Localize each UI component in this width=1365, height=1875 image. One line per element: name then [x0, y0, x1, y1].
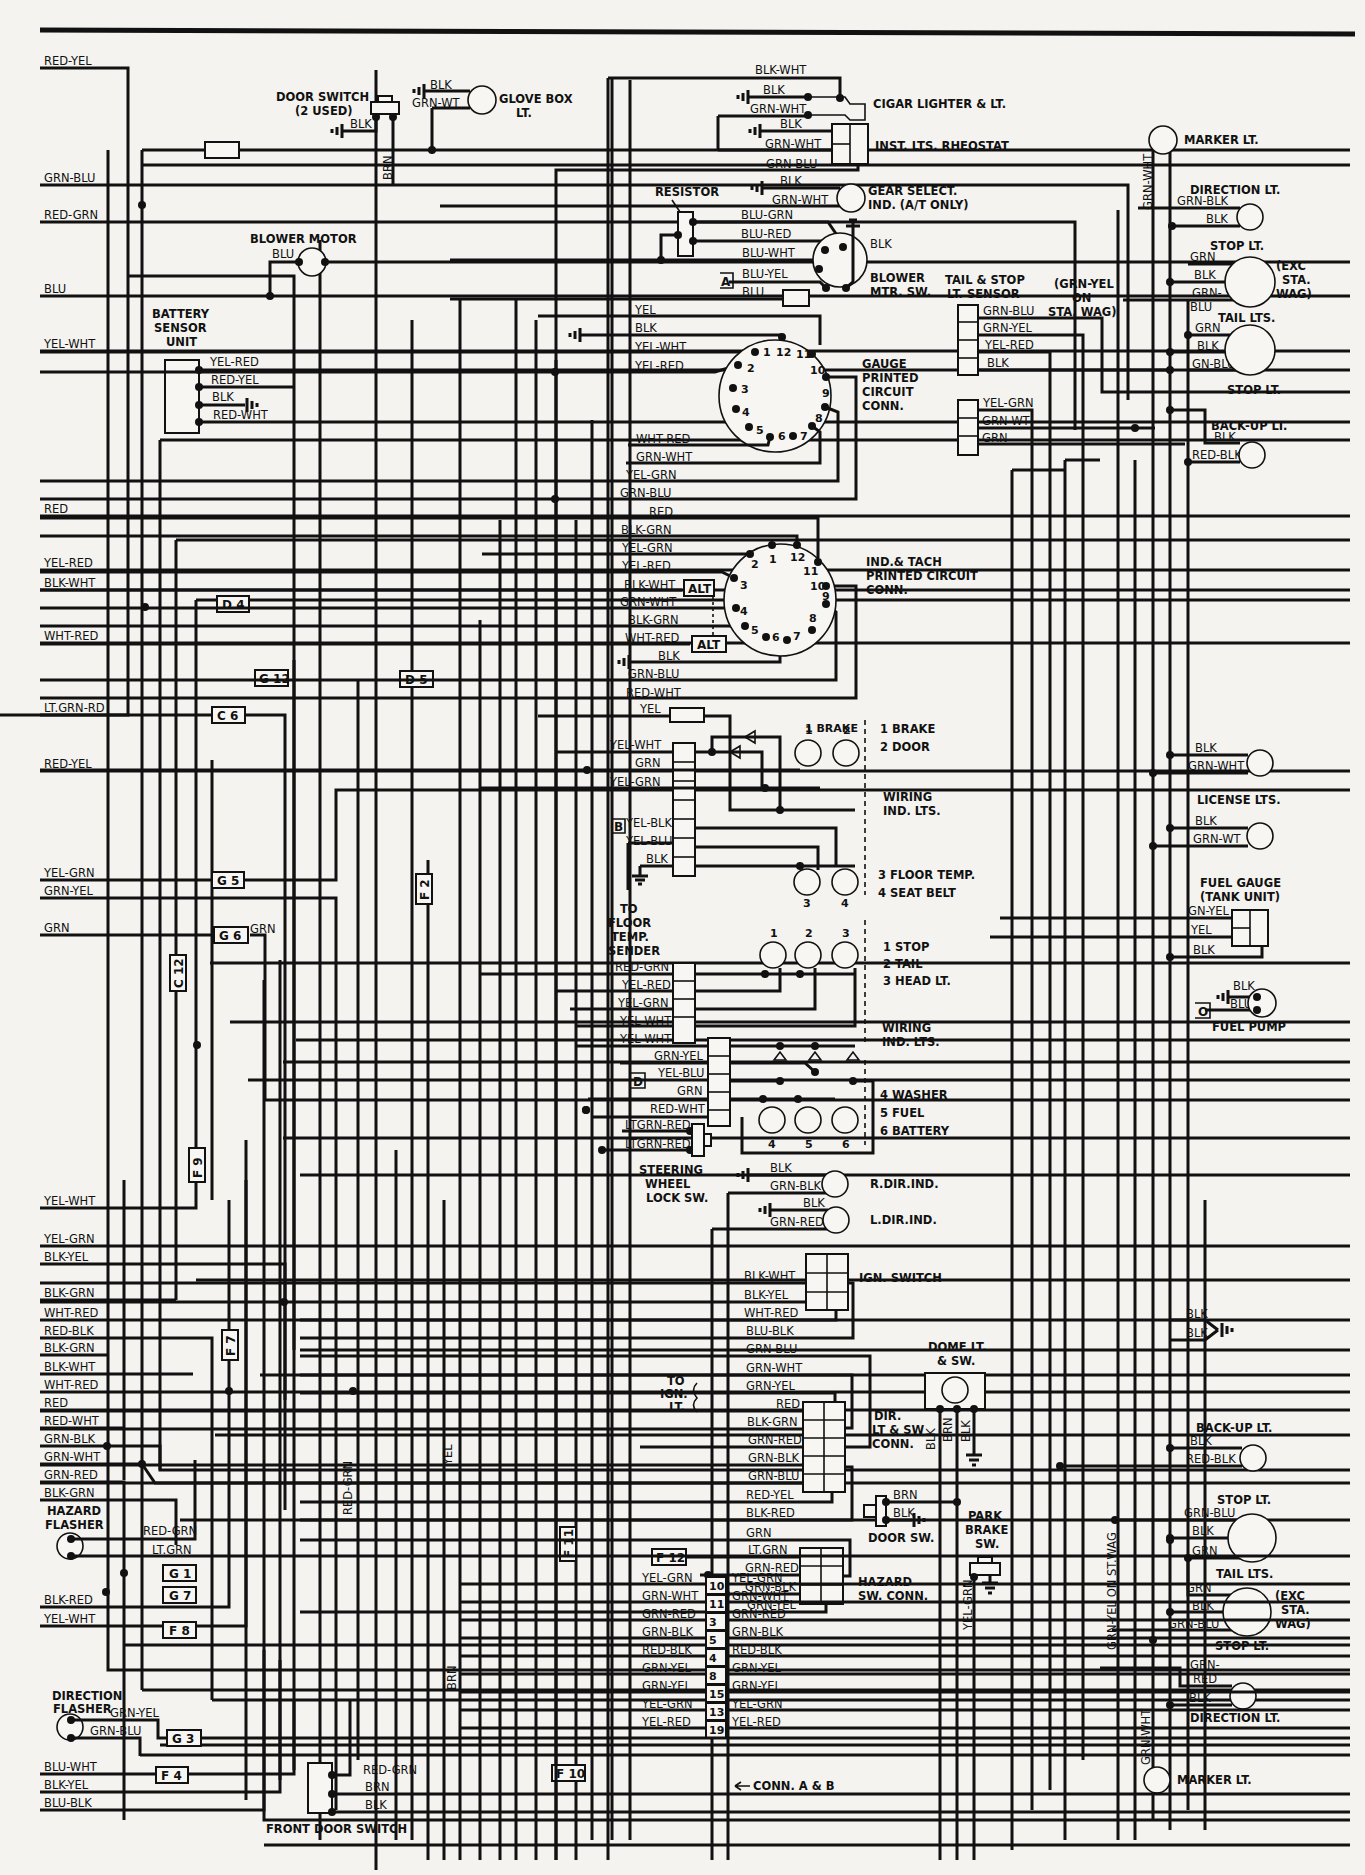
svg-text:BLK: BLK [1190, 1434, 1212, 1448]
left-wire-label: BLK-GRN [44, 1486, 95, 1500]
svg-text:BRN: BRN [445, 1666, 459, 1690]
left-wire-label: BLU-WHT [44, 1760, 98, 1774]
svg-text:TAIL & STOP: TAIL & STOP [945, 273, 1025, 287]
svg-text:2: 2 [843, 724, 851, 737]
svg-text:4 SEAT BELT: 4 SEAT BELT [878, 886, 956, 900]
svg-text:5: 5 [756, 424, 764, 437]
left-wire-label: BLK-GRN [44, 1286, 95, 1300]
svg-text:BRN: BRN [365, 1780, 389, 1794]
tag-o: O [1195, 1003, 1210, 1019]
svg-text:CIGAR LIGHTER & LT.: CIGAR LIGHTER & LT. [873, 97, 1006, 111]
svg-text:YEL-WHT: YEL-WHT [634, 340, 687, 354]
svg-text:BLU-BLK: BLU-BLK [746, 1324, 794, 1338]
code-box-g12: G 12 [255, 670, 290, 686]
left-wire-label: LT.GRN-RD [44, 701, 105, 715]
svg-text:BRN: BRN [893, 1488, 917, 1502]
svg-text:WHT-RED: WHT-RED [744, 1306, 798, 1320]
svg-text:DIR.: DIR. [874, 1409, 901, 1423]
conn-pin: 13 [709, 1706, 724, 1719]
svg-text:FUEL PUMP: FUEL PUMP [1212, 1020, 1286, 1034]
svg-text:TAIL LTS.: TAIL LTS. [1216, 1567, 1273, 1581]
svg-text:BLK: BLK [1186, 1326, 1208, 1340]
svg-text:IND. (A/T ONLY): IND. (A/T ONLY) [868, 198, 969, 212]
svg-text:LT.: LT. [669, 1400, 685, 1414]
svg-text:9: 9 [822, 387, 830, 400]
conn-pin: 8 [709, 1670, 717, 1683]
glove-box-light: BLK GRN-WT GLOVE BOX LT. [412, 78, 573, 154]
conn-left-wire: GRN-BLK [642, 1625, 694, 1639]
svg-text:BLK: BLK [658, 649, 680, 663]
wiring-ind-lights-1: YEL YEL-WHT GRN YEL-GRN B YEL-BLK YEL-BL… [40, 702, 975, 958]
svg-text:BLU: BLU [742, 285, 764, 299]
left-wire-label: YEL-WHT [43, 337, 96, 351]
svg-text:G 6: G 6 [219, 929, 241, 943]
conn-pin: 3 [709, 1616, 717, 1629]
svg-text:BRN: BRN [941, 1418, 955, 1442]
svg-text:BLK-RED: BLK-RED [746, 1506, 795, 1520]
conn-left-wire: GRN-RED [642, 1607, 696, 1621]
conn-left-wire: YEL-RED [641, 1715, 691, 1729]
svg-text:L.DIR.IND.: L.DIR.IND. [870, 1213, 937, 1227]
svg-text:GRN-: GRN- [1192, 286, 1222, 300]
svg-text:LOCK SW.: LOCK SW. [646, 1191, 708, 1205]
svg-text:ALT: ALT [688, 582, 712, 596]
svg-text:BATTERY: BATTERY [152, 307, 210, 321]
svg-text:(EXC: (EXC [1276, 259, 1306, 273]
svg-text:2 TAIL: 2 TAIL [883, 957, 923, 971]
svg-text:C 6: C 6 [217, 709, 238, 723]
conn-right-wire: YEL-RED [731, 1715, 781, 1729]
svg-text:BLK: BLK [430, 78, 452, 92]
svg-text:A: A [721, 275, 731, 289]
svg-text:D 4: D 4 [222, 598, 245, 612]
svg-text:WHEEL: WHEEL [645, 1177, 691, 1191]
svg-text:BRAKE: BRAKE [965, 1523, 1008, 1537]
svg-text:SENSOR: SENSOR [154, 321, 207, 335]
svg-text:GRN-WT: GRN-WT [1193, 832, 1242, 846]
svg-text:YEL: YEL [634, 303, 656, 317]
svg-text:PARK: PARK [968, 1509, 1003, 1523]
code-box-g3: G 3 [167, 1730, 201, 1746]
svg-text:GRN-BLU: GRN-BLU [1184, 1506, 1235, 1520]
svg-text:MARKER LT.: MARKER LT. [1177, 1773, 1252, 1787]
svg-text:STOP LT.: STOP LT. [1210, 239, 1264, 253]
conn-right-wire: GRN-YEL [732, 1679, 782, 1693]
svg-text:IGN.: IGN. [660, 1387, 688, 1401]
svg-text:MTR. SW.: MTR. SW. [870, 285, 931, 299]
ground-icon [760, 1203, 770, 1217]
svg-text:DOOR SWITCH: DOOR SWITCH [276, 90, 369, 104]
code-box-g5: G 5 [212, 872, 244, 888]
svg-text:RED-WHT: RED-WHT [626, 686, 682, 700]
svg-text:GRN-BLK: GRN-BLK [770, 1179, 822, 1193]
svg-text:LICENSE LTS.: LICENSE LTS. [1197, 793, 1281, 807]
svg-text:FLASHER: FLASHER [53, 1702, 112, 1716]
svg-text:BLK: BLK [1195, 741, 1217, 755]
svg-text:BLK: BLK [1233, 979, 1255, 993]
left-wire-label: RED-BLK [44, 1324, 94, 1338]
svg-text:GRN-WHT: GRN-WHT [750, 102, 807, 116]
svg-text:1: 1 [763, 346, 771, 359]
svg-text:BLK: BLK [924, 1428, 938, 1450]
svg-text:O: O [1198, 1005, 1208, 1019]
svg-text:RESISTOR: RESISTOR [655, 185, 719, 199]
svg-text:GAUGE: GAUGE [862, 357, 907, 371]
svg-text:GRN-YEL: GRN-YEL [983, 321, 1033, 335]
svg-text:CIRCUIT: CIRCUIT [862, 385, 914, 399]
svg-text:TAIL LTS.: TAIL LTS. [1218, 311, 1275, 325]
left-wire-label: BLU-BLK [44, 1796, 92, 1810]
svg-text:RED-WHT: RED-WHT [213, 408, 269, 422]
ground-icon [332, 124, 342, 138]
svg-text:GRN-BLU: GRN-BLU [746, 1342, 797, 1356]
svg-text:YEL: YEL [1190, 923, 1212, 937]
svg-text:GRN: GRN [250, 922, 276, 936]
conn-left-wire: RED-BLK [642, 1643, 692, 1657]
svg-text:SW.: SW. [975, 1537, 999, 1551]
svg-text:MARKER LT.: MARKER LT. [1184, 133, 1259, 147]
conn-right-wire: GRN-YEL [732, 1661, 782, 1675]
left-wire-label: YEL-GRN [43, 1232, 95, 1246]
svg-text:IND.& TACH: IND.& TACH [866, 555, 942, 569]
svg-text:TEMP.: TEMP. [611, 930, 649, 944]
resistor: RESISTOR [655, 185, 719, 264]
svg-text:YEL-BLK: YEL-BLK [625, 816, 673, 830]
bulb-icon [468, 86, 496, 114]
svg-text:BLK: BLK [1206, 212, 1228, 226]
